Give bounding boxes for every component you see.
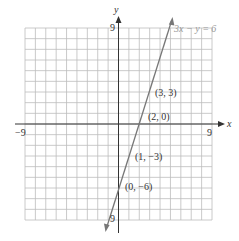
x-max-label: 9 [207,127,212,138]
point-label-0-neg6: (0, −6) [125,181,152,193]
point-label-2-0: (2, 0) [148,111,170,123]
y-min-label: 9 [110,213,115,224]
coordinate-graph: y x 9 9 −9 9 3x − y = 6 (3, 3) (2, 0) (1… [0,0,239,241]
y-axis-arrow-icon [116,16,122,23]
point-label-1-neg3: (1, −3) [135,151,162,163]
x-axis-arrow-icon [218,121,225,127]
x-axis-label: x [226,118,232,129]
point-label-3-3: (3, 3) [155,87,177,99]
line-bottom-arrow-icon [104,224,110,233]
x-min-label: −9 [15,127,26,138]
y-max-label: 9 [110,22,115,33]
equation-label: 3x − y = 6 [173,23,216,34]
y-axis-label: y [113,4,119,15]
